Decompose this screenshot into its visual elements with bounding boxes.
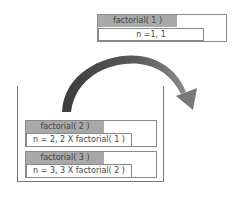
popped-frame-factorial-1: factorial( 1 ) n =1, 1	[97, 14, 227, 42]
frame-detail: n =1, 1	[98, 28, 204, 41]
frame-detail: n = 2, 2 X factorial( 1 )	[26, 133, 132, 147]
frame-title: factorial( 1 )	[98, 15, 177, 27]
frame-title: factorial( 3 )	[26, 152, 104, 164]
frame-title: factorial( 2 )	[26, 121, 104, 133]
frame-detail: n = 3, 3 X factorial( 2 )	[26, 164, 132, 178]
stack-frame-factorial-3: factorial( 3 ) n = 3, 3 X factorial( 2 )	[25, 151, 157, 178]
stack-frame-factorial-2: factorial( 2 ) n = 2, 2 X factorial( 1 )	[25, 120, 157, 147]
stack-right-wall	[163, 86, 164, 182]
stack-left-wall	[17, 86, 18, 182]
stack-bottom	[17, 181, 164, 182]
